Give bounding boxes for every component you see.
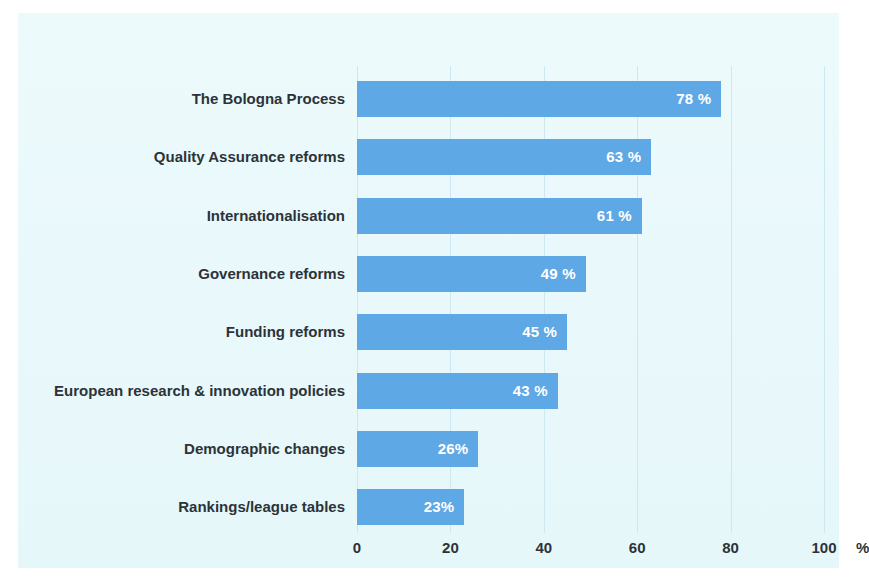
x-tick-label: 40 (519, 536, 569, 560)
bar-value-label: 78 % (676, 81, 711, 117)
gridline-40 (544, 66, 545, 533)
plot-area: 78 %63 %61 %49 %45 %43 %26%23% (357, 66, 824, 533)
category-label: The Bologna Process (45, 81, 345, 117)
x-tick-label: 0 (332, 536, 382, 560)
chart-panel: The Bologna ProcessQuality Assurance ref… (18, 13, 839, 568)
category-label: Governance reforms (45, 256, 345, 292)
bar-value-label: 49 % (541, 256, 576, 292)
category-label: European research & innovation policies (45, 373, 345, 409)
bar[interactable] (357, 81, 721, 117)
x-tick-label: 100 (799, 536, 849, 560)
bar-row[interactable]: 43 % (357, 373, 558, 409)
gridline-100 (824, 66, 825, 533)
bar-row[interactable]: 23% (357, 489, 464, 525)
category-label: Demographic changes (45, 431, 345, 467)
bar-row[interactable]: 63 % (357, 139, 651, 175)
bar-value-label: 63 % (606, 139, 641, 175)
bar-row[interactable]: 49 % (357, 256, 586, 292)
x-tick-label: 60 (612, 536, 662, 560)
bar-value-label: 61 % (597, 198, 632, 234)
bar-value-label: 43 % (513, 373, 548, 409)
bar-value-label: 45 % (522, 314, 557, 350)
bar-value-label: 23% (424, 489, 455, 525)
category-label: Quality Assurance reforms (45, 139, 345, 175)
bar-row[interactable]: 26% (357, 431, 478, 467)
category-label: Internationalisation (45, 198, 345, 234)
bar-row[interactable]: 78 % (357, 81, 721, 117)
gridline-60 (637, 66, 638, 533)
x-tick-label: 20 (425, 536, 475, 560)
bar-value-label: 26% (438, 431, 469, 467)
value-axis: 020406080100% (357, 536, 857, 566)
axis-unit-label: % (856, 536, 869, 560)
gridline-80 (731, 66, 732, 533)
category-axis-labels: The Bologna ProcessQuality Assurance ref… (43, 66, 345, 533)
bar-row[interactable]: 45 % (357, 314, 567, 350)
bar-row[interactable]: 61 % (357, 198, 642, 234)
x-tick-label: 80 (706, 536, 756, 560)
category-label: Rankings/league tables (45, 489, 345, 525)
category-label: Funding reforms (45, 314, 345, 350)
